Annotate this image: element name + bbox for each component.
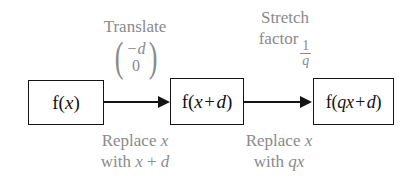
translate-instruction-line2: with x + d (62, 151, 208, 172)
arrow-translate-shaft (104, 101, 160, 103)
function-box-f-of-qx-plus-d-text: f(qx+d) (326, 93, 382, 111)
fraction-denominator: q (300, 53, 311, 68)
transformation-diagram: Translate ( −d 0 ) Stretch factor1q f(x)… (0, 0, 411, 186)
translation-vector: ( −d 0 ) (101, 40, 171, 74)
vector-open-paren: ( (114, 40, 123, 74)
stretch-instruction-line2: with qx (206, 151, 352, 172)
stretch-factor-label: Stretch factor1q (212, 7, 358, 68)
function-box-f-of-qx-plus-d: f(qx+d) (313, 78, 394, 125)
vector-component-bottom: 0 (132, 57, 140, 74)
stretch-instruction-line1: Replace x (206, 130, 352, 151)
stretch-instruction: Replace x with qx (206, 130, 352, 172)
fraction-numerator: 1 (300, 39, 311, 53)
vector-component-top: −d (127, 40, 146, 57)
function-box-f-of-x: f(x) (28, 80, 104, 125)
translate-instruction-line1: Replace x (62, 130, 208, 151)
function-box-f-of-x-plus-d: f(x+d) (170, 78, 244, 125)
translate-label: Translate (72, 16, 198, 37)
arrow-stretch-head (300, 96, 312, 108)
stretch-fraction: 1q (300, 39, 311, 68)
stretch-label-line2: factor1q (212, 28, 358, 68)
function-box-f-of-x-text: f(x) (52, 93, 79, 112)
function-box-f-of-x-plus-d-text: f(x+d) (182, 92, 233, 111)
vector-close-paren: ) (149, 40, 158, 74)
stretch-label-line1: Stretch (212, 7, 358, 28)
vector-components: −d 0 (126, 40, 147, 74)
arrow-translate-head (158, 96, 170, 108)
arrow-translate (104, 94, 170, 110)
translate-instruction: Replace x with x + d (62, 130, 208, 172)
arrow-stretch (244, 94, 313, 110)
arrow-stretch-shaft (244, 101, 302, 103)
stretch-factor-word: factor (259, 29, 299, 48)
